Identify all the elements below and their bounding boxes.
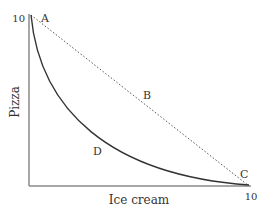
point-b-label: B [143, 89, 151, 102]
convex-curve [31, 15, 249, 185]
point-c-label: C [240, 168, 248, 181]
x-axis-title: Ice cream [109, 193, 170, 207]
point-a-label: A [40, 12, 50, 25]
point-d-label: D [93, 145, 102, 158]
diagram: 10 10 A B C D Ice cream Pizza [0, 0, 267, 217]
y-axis-title: Pizza [8, 86, 22, 118]
x-max-label: 10 [245, 191, 258, 202]
y-max-label: 10 [12, 13, 25, 24]
